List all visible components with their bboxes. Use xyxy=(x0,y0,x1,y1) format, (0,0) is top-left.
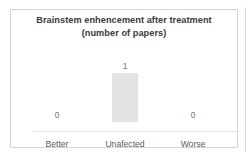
chart-title-line-1: Brainstem enhencement after treatment xyxy=(36,15,211,25)
bar-value-label-better: 0 xyxy=(55,110,60,120)
x-axis-line xyxy=(33,131,239,132)
bar-unafected xyxy=(112,73,138,122)
chart-title: Brainstem enhencement after treatment (n… xyxy=(11,14,237,39)
x-axis-label-unafected: Unafected xyxy=(91,138,159,150)
bar-group-unafected: 1 xyxy=(91,44,159,122)
bar-group-worse: 0 xyxy=(159,44,227,122)
x-axis-label-worse: Worse xyxy=(159,138,227,150)
bar-value-label-unafected: 1 xyxy=(123,61,128,71)
chart-title-line-2: (number of papers) xyxy=(11,27,237,40)
plot-area: 0 1 0 xyxy=(23,44,227,122)
x-axis-label-better: Better xyxy=(23,138,91,150)
outer-frame-edge xyxy=(245,7,251,152)
chart-container: Brainstem enhencement after treatment (n… xyxy=(10,9,238,148)
x-axis-category-labels: Better Unafected Worse xyxy=(23,138,227,152)
bar-group-better: 0 xyxy=(23,44,91,122)
bar-value-label-worse: 0 xyxy=(191,110,196,120)
